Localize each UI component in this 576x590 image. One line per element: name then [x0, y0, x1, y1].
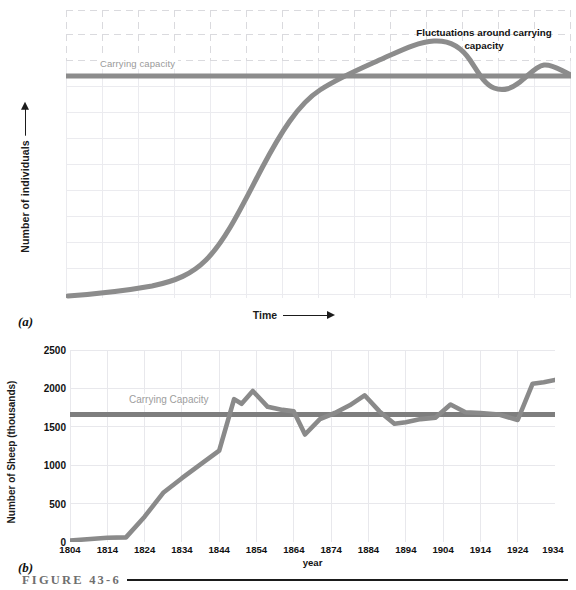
- caption-rule-divider: [127, 579, 568, 581]
- panel-b-grid: [70, 350, 555, 542]
- panel-a-carrying-capacity-label: Carrying capacity: [97, 58, 178, 69]
- figure-caption-row: FIGURE 43-6: [0, 570, 576, 590]
- panel-a-x-axis-text: Time: [253, 309, 277, 321]
- y-tick-1000: 1000: [20, 460, 66, 471]
- panel-b-y-tick-labels: 2500 2000 1500 1000 500 0: [16, 350, 66, 542]
- figure-43-6: Number of individuals Carrying capacity …: [0, 0, 576, 590]
- panel-b-carrying-capacity-label: Carrying Capacity: [126, 394, 211, 405]
- x-tick-1934: 1934: [542, 544, 563, 555]
- x-tick-1844: 1844: [209, 544, 230, 555]
- x-tick-1854: 1854: [246, 544, 267, 555]
- x-tick-1824: 1824: [134, 544, 155, 555]
- panel-a-grid: [66, 60, 571, 298]
- panel-b-sheep-population-chart: 2500 2000 1500 1000 500 0: [0, 336, 576, 568]
- panel-b-y-axis-label: Number of Sheep (thousands): [2, 372, 20, 532]
- y-tick-2000: 2000: [20, 383, 66, 394]
- x-tick-1814: 1814: [97, 544, 118, 555]
- panel-b-svg: [70, 350, 555, 542]
- panel-b-x-axis-label: year: [70, 557, 555, 568]
- panel-a-y-axis-label: Number of individuals: [14, 92, 36, 262]
- arrow-right-icon: [21, 101, 30, 135]
- x-tick-1884: 1884: [358, 544, 379, 555]
- x-tick-1804: 1804: [59, 544, 80, 555]
- x-tick-1904: 1904: [432, 544, 453, 555]
- x-tick-1874: 1874: [321, 544, 342, 555]
- y-tick-1500: 1500: [20, 421, 66, 432]
- x-tick-1914: 1914: [470, 544, 491, 555]
- panel-b-plot-area: [70, 350, 555, 542]
- y-tick-500: 500: [20, 498, 66, 509]
- panel-b-y-axis-text: Number of Sheep (thousands): [6, 381, 17, 524]
- x-tick-1924: 1924: [507, 544, 528, 555]
- panel-a-x-axis-label: Time: [0, 309, 576, 321]
- x-tick-1894: 1894: [395, 544, 416, 555]
- panel-a-tag: (a): [18, 314, 33, 330]
- panel-a-y-axis-text: Number of individuals: [19, 140, 31, 252]
- x-tick-1834: 1834: [171, 544, 192, 555]
- x-tick-1864: 1864: [283, 544, 304, 555]
- panel-a-logistic-growth-chart: Number of individuals Carrying capacity …: [0, 0, 576, 336]
- arrow-right-icon: [283, 311, 335, 320]
- y-tick-2500: 2500: [20, 345, 66, 356]
- figure-caption-label: FIGURE 43-6: [0, 573, 121, 588]
- panel-a-fluctuations-annotation: Fluctuations around carrying capacity: [404, 27, 564, 52]
